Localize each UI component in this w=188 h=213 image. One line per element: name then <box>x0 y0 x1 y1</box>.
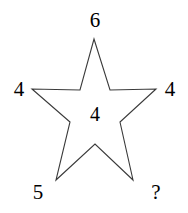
star-label-left: 4 <box>14 79 25 100</box>
star-label-bottom-right-unknown: ? <box>151 182 160 203</box>
star-label-bottom-left: 5 <box>33 182 44 203</box>
star-label-right: 4 <box>165 79 176 100</box>
star-label-top: 6 <box>90 10 101 31</box>
star-label-center: 4 <box>90 104 100 125</box>
star-number-puzzle-figure: 6 4 4 4 5 ? <box>0 0 188 213</box>
